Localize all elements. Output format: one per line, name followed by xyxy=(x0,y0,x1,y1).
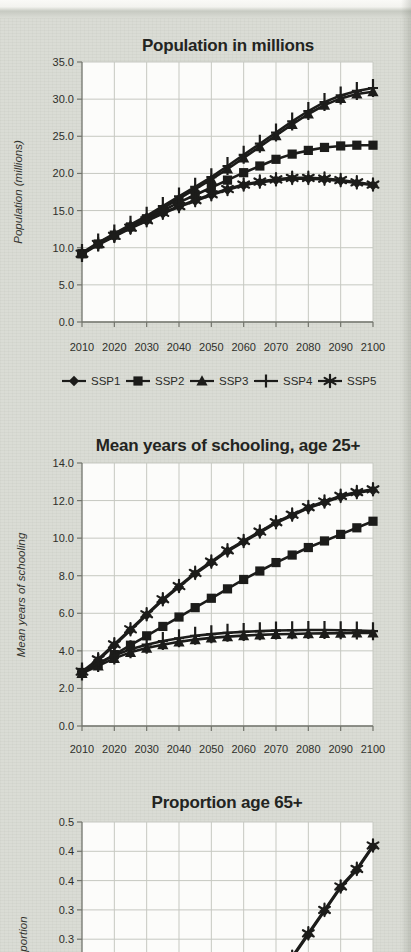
x-tick-label: 2010 xyxy=(70,743,94,755)
y-tick-label: 0.3 xyxy=(59,904,74,916)
square-marker-icon xyxy=(352,523,361,532)
square-marker-icon xyxy=(336,530,345,539)
plot-area-proportion-65: 0.50.40.40.30.3 xyxy=(59,816,379,952)
x-tick-label: 2020 xyxy=(102,743,126,755)
square-marker-icon xyxy=(271,558,280,567)
square-marker-icon xyxy=(271,155,280,164)
legend-item-ssp4: SSP4 xyxy=(254,375,313,388)
y-tick-label: 20.0 xyxy=(53,167,74,179)
square-marker-icon xyxy=(158,622,167,631)
square-marker-icon xyxy=(239,168,248,177)
y-tick-label: 2.0 xyxy=(59,682,74,694)
x-tick-label: 2080 xyxy=(296,341,320,353)
y-tick-label: 14.0 xyxy=(53,457,74,469)
y-tick-label: 12.0 xyxy=(53,495,74,507)
x-tick-label: 2090 xyxy=(328,743,352,755)
x-tick-label: 2090 xyxy=(328,341,352,353)
x-tick-label: 2060 xyxy=(231,743,255,755)
y-tick-label: 15.0 xyxy=(53,205,74,217)
x-tick-label: 2070 xyxy=(264,341,288,353)
y-tick-label: 35.0 xyxy=(53,56,74,68)
legend: SSP1SSP2SSP3SSP4SSP5 xyxy=(62,375,376,388)
chart-title: Population in millions xyxy=(142,36,314,55)
y-tick-label: 10.0 xyxy=(53,242,74,254)
x-tick-label: 2010 xyxy=(70,341,94,353)
x-tick-label: 2070 xyxy=(264,743,288,755)
scanned-figure-page: Population in millions Population (milli… xyxy=(0,0,411,952)
x-tick-label: 2020 xyxy=(102,341,126,353)
square-marker-icon xyxy=(207,594,216,603)
legend-label: SSP5 xyxy=(347,375,376,387)
square-marker-icon xyxy=(255,566,264,575)
plus-marker-icon xyxy=(261,375,271,388)
x-tick-label: 2050 xyxy=(199,341,223,353)
y-tick-label: 5.0 xyxy=(59,279,74,291)
y-tick-label: 0.4 xyxy=(59,875,74,887)
y-axis-title: Mean years of schooling xyxy=(15,532,27,657)
chart-population: Population in millions Population (milli… xyxy=(12,36,385,388)
square-marker-icon xyxy=(320,536,329,545)
y-tick-label: 0.3 xyxy=(59,933,74,945)
y-tick-label: 0.4 xyxy=(59,845,74,857)
x-tick-label: 2100 xyxy=(361,341,385,353)
legend-label: SSP2 xyxy=(155,375,184,387)
x-tick-label: 2080 xyxy=(296,743,320,755)
square-marker-icon xyxy=(320,143,329,152)
charts-canvas: Population in millions Population (milli… xyxy=(0,0,411,952)
square-marker-icon xyxy=(255,161,264,170)
square-marker-icon xyxy=(368,517,377,526)
y-tick-label: 4.0 xyxy=(59,645,74,657)
legend-item-ssp1: SSP1 xyxy=(62,375,120,387)
y-tick-label: 0.5 xyxy=(59,816,74,828)
plot-area-schooling: 14.012.010.08.06.04.02.00.02010202020302… xyxy=(53,457,386,755)
y-tick-label: 25.0 xyxy=(53,130,74,142)
square-marker-icon xyxy=(191,603,200,612)
legend-label: SSP3 xyxy=(219,375,248,387)
square-marker-icon xyxy=(133,376,142,385)
y-tick-label: 0.0 xyxy=(59,720,74,732)
y-tick-label: 30.0 xyxy=(53,93,74,105)
square-marker-icon xyxy=(174,612,183,621)
square-marker-icon xyxy=(304,146,313,155)
y-axis-title: Proportion xyxy=(17,916,29,952)
square-marker-icon xyxy=(239,575,248,584)
plot-background xyxy=(82,822,373,952)
y-tick-label: 0.0 xyxy=(59,316,74,328)
square-marker-icon xyxy=(288,150,297,159)
page-right-edge-shadow xyxy=(401,0,411,952)
square-marker-icon xyxy=(352,141,361,150)
x-tick-label: 2030 xyxy=(134,341,158,353)
y-tick-label: 8.0 xyxy=(59,570,74,582)
square-marker-icon xyxy=(336,141,345,150)
x-tick-label: 2100 xyxy=(361,743,385,755)
y-tick-label: 10.0 xyxy=(53,532,74,544)
plot-area-population: 35.030.025.020.015.010.05.00.02010202020… xyxy=(53,56,386,388)
square-marker-icon xyxy=(223,584,232,593)
legend-label: SSP4 xyxy=(283,375,313,387)
square-marker-icon xyxy=(304,543,313,552)
square-marker-icon xyxy=(368,141,377,150)
y-tick-label: 6.0 xyxy=(59,607,74,619)
x-tick-label: 2030 xyxy=(134,743,158,755)
x-tick-label: 2040 xyxy=(167,743,191,755)
diamond-marker-icon xyxy=(69,376,79,386)
chart-schooling: Mean years of schooling, age 25+ Mean ye… xyxy=(15,436,385,755)
y-axis-title: Population (millions) xyxy=(12,140,24,244)
x-tick-label: 2040 xyxy=(167,341,191,353)
legend-item-ssp2: SSP2 xyxy=(126,375,184,387)
square-marker-icon xyxy=(288,550,297,559)
chart-title: Mean years of schooling, age 25+ xyxy=(96,436,361,455)
chart-proportion-65: Proportion age 65+ Proportion 0.50.40.40… xyxy=(17,793,378,952)
x-tick-label: 2050 xyxy=(199,743,223,755)
legend-item-ssp5: SSP5 xyxy=(318,375,376,387)
chart-title: Proportion age 65+ xyxy=(152,793,303,812)
legend-item-ssp3: SSP3 xyxy=(190,375,248,387)
legend-label: SSP1 xyxy=(91,375,120,387)
x-tick-label: 2060 xyxy=(231,341,255,353)
